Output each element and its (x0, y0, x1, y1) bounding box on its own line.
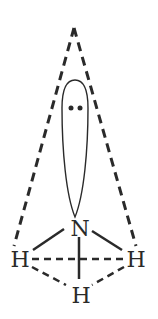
bond-n-h-right (92, 231, 122, 250)
apex-right-dashed-edge (74, 28, 136, 246)
atom-nitrogen: N (70, 216, 89, 241)
lone-pair-orbital (62, 80, 88, 217)
nh3-diagram: N H H H (0, 0, 158, 319)
atom-hydrogen-right: H (126, 247, 145, 272)
atom-hydrogen-left: H (10, 247, 29, 272)
lone-pair-electron (78, 106, 83, 111)
base-dashed-right-bottom (92, 267, 124, 285)
base-dashed-left-bottom (32, 267, 66, 285)
bond-n-h-left (33, 229, 64, 250)
apex-left-dashed-edge (14, 28, 74, 246)
lone-pair-electron (69, 106, 74, 111)
atom-hydrogen-bottom: H (71, 283, 90, 308)
